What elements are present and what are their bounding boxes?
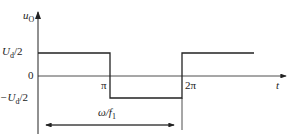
period-label: ω/f1 <box>98 107 116 121</box>
waveform-diagram <box>0 0 298 138</box>
y-axis-label: uO <box>23 10 34 24</box>
zero-label: 0 <box>28 70 34 81</box>
x-axis-label: t <box>276 80 279 91</box>
upper-level-label: Ud/2 <box>2 46 23 60</box>
tick-2pi: 2π <box>185 80 196 91</box>
tick-pi: π <box>101 80 107 91</box>
lower-level-label: −Ud/2 <box>0 92 28 106</box>
square-wave <box>38 53 254 98</box>
